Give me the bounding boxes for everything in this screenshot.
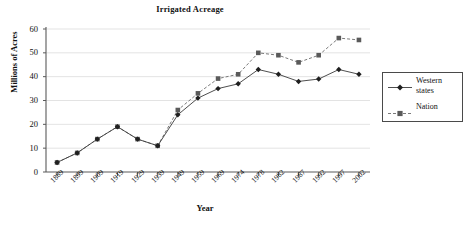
data-point-western-states-1987 bbox=[296, 79, 301, 84]
legend-marker-western-states bbox=[388, 84, 412, 91]
legend-label-line2: states bbox=[416, 86, 462, 96]
y-tick-label-10: 10 bbox=[18, 144, 38, 153]
legend-item-western-states[interactable]: Western states bbox=[383, 77, 462, 97]
data-point-nation-1974 bbox=[236, 72, 241, 77]
y-tick-label-0: 0 bbox=[18, 168, 38, 177]
chart-legend: Western states Nation bbox=[382, 72, 463, 122]
y-tick-label-50: 50 bbox=[18, 48, 38, 57]
data-point-nation-1969 bbox=[216, 76, 221, 81]
y-axis-title: Millions of Acres bbox=[9, 0, 19, 127]
data-point-western-states-2002 bbox=[356, 72, 361, 77]
y-tick-label-60: 60 bbox=[18, 25, 38, 34]
chart-title: Irrigated Acreage bbox=[0, 4, 380, 14]
legend-label-line1: Western bbox=[416, 76, 442, 85]
y-tick-label-40: 40 bbox=[18, 72, 38, 81]
chart-figure: Irrigated Acreage Millions of Acres Year… bbox=[0, 0, 469, 225]
data-point-nation-1959 bbox=[196, 91, 201, 96]
legend-label-line1: Nation bbox=[416, 102, 438, 111]
data-point-nation-1978 bbox=[256, 51, 261, 56]
data-point-nation-1992 bbox=[316, 53, 321, 58]
data-point-nation-1949 bbox=[176, 108, 181, 113]
data-point-nation-1987 bbox=[296, 60, 301, 65]
y-tick-label-30: 30 bbox=[18, 96, 38, 105]
data-point-western-states-1997 bbox=[336, 67, 341, 72]
legend-label-western-states: Western states bbox=[416, 76, 462, 96]
data-point-nation-1997 bbox=[337, 36, 342, 41]
x-axis-title: Year bbox=[40, 203, 370, 213]
data-point-nation-2002 bbox=[357, 38, 362, 43]
legend-label-nation: Nation bbox=[416, 102, 462, 112]
data-point-western-states-1982 bbox=[276, 72, 281, 77]
legend-marker-nation bbox=[388, 110, 412, 117]
y-tick-label-20: 20 bbox=[18, 120, 38, 129]
data-point-nation-1982 bbox=[276, 53, 281, 58]
legend-item-nation[interactable]: Nation bbox=[383, 103, 462, 123]
data-point-western-states-1992 bbox=[316, 76, 321, 81]
data-point-western-states-1969 bbox=[215, 86, 220, 91]
